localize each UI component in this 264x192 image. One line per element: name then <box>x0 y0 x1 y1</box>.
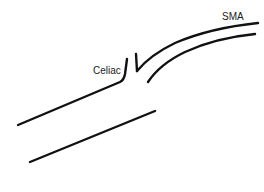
sma-lower-wall <box>148 34 255 82</box>
celiac-right-wall <box>136 54 137 71</box>
aorta-lower-wall <box>30 111 155 162</box>
celiac-label: Celiac <box>93 65 121 76</box>
vessel-diagram: Celiac SMA <box>0 0 264 192</box>
sma-label: SMA <box>222 11 244 22</box>
